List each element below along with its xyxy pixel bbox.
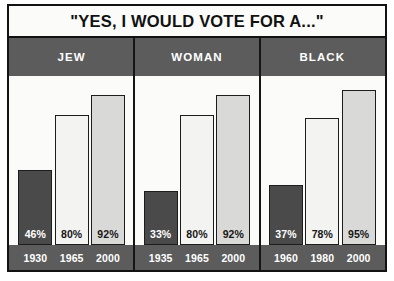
group-header-label: JEW bbox=[58, 51, 86, 63]
bar-chart-figure: "YES, I WOULD VOTE FOR A..." JEW WOMAN B… bbox=[0, 0, 394, 281]
bar-value-label: 46% bbox=[25, 228, 46, 244]
group-header-label: BLACK bbox=[299, 51, 345, 63]
bar: 33% bbox=[144, 191, 178, 245]
page-title: "YES, I WOULD VOTE FOR A..." bbox=[70, 12, 323, 31]
chart-poster-frame: "YES, I WOULD VOTE FOR A..." JEW WOMAN B… bbox=[7, 4, 387, 272]
bar-group-woman: 33% 80% 92% bbox=[134, 76, 259, 245]
group-header-black: BLACK bbox=[260, 38, 385, 76]
group-header-woman: WOMAN bbox=[134, 38, 259, 76]
group-header-jew: JEW bbox=[9, 38, 134, 76]
axis-tick-label: 2000 bbox=[216, 252, 250, 264]
bar-value-label: 92% bbox=[97, 228, 118, 244]
axis-tick-label: 2000 bbox=[91, 252, 125, 264]
bar-group-black: 37% 78% 95% bbox=[260, 76, 385, 245]
bar: 92% bbox=[216, 95, 250, 245]
plot-area: 46% 80% 92% 33% 80% 92% bbox=[9, 76, 385, 245]
axis-tick-label: 1965 bbox=[55, 252, 89, 264]
bar-value-label: 78% bbox=[312, 228, 333, 244]
axis-tick-label: 1965 bbox=[180, 252, 214, 264]
axis-tick-label: 1935 bbox=[144, 252, 178, 264]
axis-tick-label: 2000 bbox=[342, 252, 376, 264]
bar: 80% bbox=[180, 115, 214, 245]
bar: 92% bbox=[91, 95, 125, 245]
bar: 80% bbox=[55, 115, 89, 245]
bar-group-jew: 46% 80% 92% bbox=[9, 76, 134, 245]
group-header-label: WOMAN bbox=[171, 51, 223, 63]
bar-value-label: 80% bbox=[186, 228, 207, 244]
year-labels-black: 1960 1980 2000 bbox=[260, 245, 385, 270]
year-labels-jew: 1930 1965 2000 bbox=[9, 245, 134, 270]
bar-value-label: 33% bbox=[150, 228, 171, 244]
bar-value-label: 37% bbox=[275, 228, 296, 244]
group-header-band: JEW WOMAN BLACK bbox=[9, 38, 385, 76]
bar-value-label: 80% bbox=[61, 228, 82, 244]
year-axis-band: 1930 1965 2000 1935 1965 2000 1960 1980 … bbox=[9, 245, 385, 270]
bar: 78% bbox=[305, 118, 339, 245]
axis-tick-label: 1980 bbox=[305, 252, 339, 264]
year-labels-woman: 1935 1965 2000 bbox=[134, 245, 259, 270]
chart-title-band: "YES, I WOULD VOTE FOR A..." bbox=[9, 6, 385, 38]
bar: 95% bbox=[342, 90, 376, 245]
axis-tick-label: 1960 bbox=[269, 252, 303, 264]
bar: 37% bbox=[269, 185, 303, 245]
bar: 46% bbox=[18, 170, 52, 245]
axis-tick-label: 1930 bbox=[18, 252, 52, 264]
bar-value-label: 92% bbox=[223, 228, 244, 244]
bar-value-label: 95% bbox=[348, 228, 369, 244]
